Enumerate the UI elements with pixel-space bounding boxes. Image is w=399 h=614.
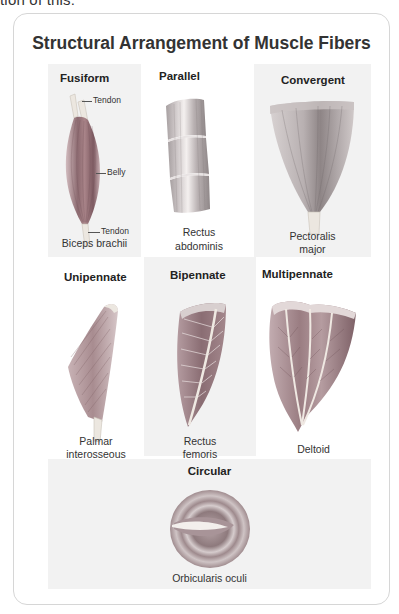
figure-card: Structural Arrangement of Muscle Fibers …	[13, 13, 390, 605]
example-biceps-brachii: Biceps brachii	[48, 236, 141, 250]
belly-pointer	[96, 173, 106, 174]
example-rectus-abdominis-line1: Rectus	[144, 225, 254, 239]
tendon-bottom-pointer	[88, 232, 100, 233]
example-orbicularis-oculi: Orbicularis oculi	[48, 571, 371, 585]
cell-multipennate: Multipennate	[256, 257, 371, 456]
example-deltoid: Deltoid	[256, 442, 371, 456]
cell-parallel: Parallel Rectus abd	[144, 64, 254, 257]
cell-fusiform: Fusiform	[48, 64, 141, 257]
circular-muscle-illustration	[48, 459, 371, 589]
example-rectus-femoris-line1: Rectus	[144, 434, 256, 448]
unipennate-muscle-illustration	[48, 257, 144, 457]
example-rectus-abdominis-line2: abdominis	[144, 239, 254, 253]
cell-circular: Circular Orbicularis oculi	[48, 459, 371, 589]
bipennate-muscle-illustration	[144, 257, 256, 456]
cell-unipennate: Unipennate Palmar interosseous	[48, 257, 144, 457]
cut-off-caption-text: tion of this:	[0, 0, 75, 8]
annotation-belly: Belly	[107, 167, 125, 177]
example-palmar-interosseous-line1: Palmar	[48, 434, 144, 448]
figure-title: Structural Arrangement of Muscle Fibers	[14, 33, 389, 54]
example-pectoralis-major-line1: Pectoralis	[254, 229, 371, 243]
annotation-tendon-bottom: Tendon	[101, 226, 129, 236]
multipennate-muscle-illustration	[256, 257, 371, 456]
annotation-tendon-top: Tendon	[93, 95, 121, 105]
example-pectoralis-major-line2: major	[254, 242, 371, 256]
tendon-top-pointer	[82, 101, 92, 102]
cell-convergent: Convergent Pectoralis major	[254, 64, 371, 257]
cell-bipennate: Bipennate Rectus femoris	[144, 257, 256, 456]
